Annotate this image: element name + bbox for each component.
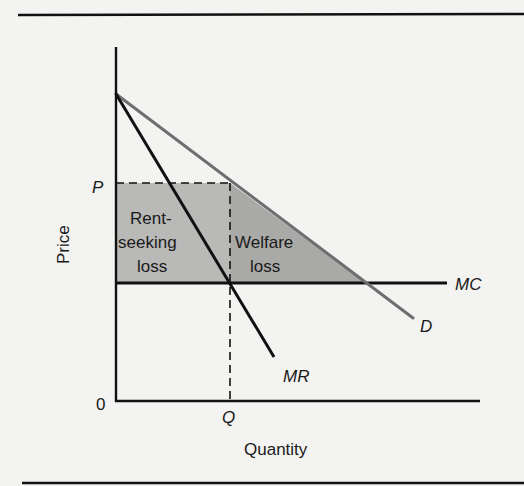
y-axis-label: Price (54, 225, 73, 264)
rent-seeking-label-line1: Rent- (130, 209, 172, 228)
price-tick-label: P (92, 178, 104, 197)
welfare-loss-label-line2: loss (250, 257, 280, 276)
monopoly-welfare-diagram: P Q 0 Quantity Price MC D MR Rent- seeki… (0, 0, 524, 486)
origin-label: 0 (96, 395, 105, 414)
quantity-tick-label: Q (222, 408, 235, 427)
diagram-canvas: P Q 0 Quantity Price MC D MR Rent- seeki… (0, 0, 524, 486)
top-border (18, 14, 524, 15)
welfare-loss-label-line1: Welfare (235, 233, 293, 252)
demand-label: D (420, 317, 432, 336)
x-axis-label: Quantity (244, 440, 308, 459)
rent-seeking-label-line3: loss (137, 257, 167, 276)
rent-seeking-label-line2: seeking (118, 233, 177, 252)
mr-label: MR (283, 367, 309, 386)
mc-label: MC (455, 275, 482, 294)
